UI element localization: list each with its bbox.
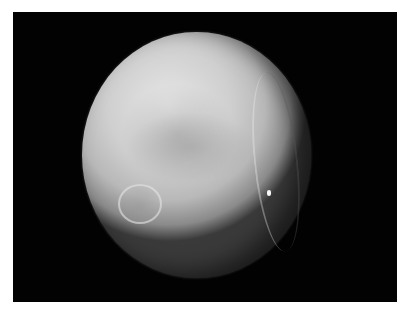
ring-crater (118, 184, 162, 224)
space-background (13, 12, 397, 302)
dark-plain-region (126, 112, 256, 182)
bright-spot (267, 190, 271, 196)
moon (82, 32, 311, 278)
rift-canyon (245, 70, 308, 254)
